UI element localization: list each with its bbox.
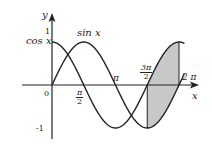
x-tick-three-half-pi: 3π 2 bbox=[140, 64, 152, 81]
sin-label: sin x bbox=[77, 28, 101, 38]
x-tick-2pi: 2 π bbox=[182, 73, 197, 82]
y-axis-label: y bbox=[42, 10, 48, 20]
y-tick-neg1: -1 bbox=[36, 125, 44, 133]
trig-plot bbox=[0, 0, 212, 144]
origin-label: 0 bbox=[44, 90, 49, 98]
x-axis-label: x bbox=[192, 91, 198, 101]
cos-label: cos x bbox=[26, 36, 52, 46]
x-tick-half-pi: π 2 bbox=[76, 89, 83, 106]
x-tick-pi: π bbox=[113, 74, 119, 83]
